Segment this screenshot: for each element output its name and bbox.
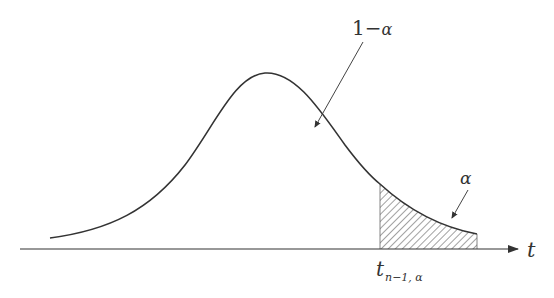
axis-label-t: t [527,238,536,262]
t-distribution-diagram: 1−α α t tn−1, α [0,0,554,298]
tail-area-label: α [460,168,472,188]
tail-area-arrow [452,190,468,218]
tail-region-shading [380,184,477,249]
critical-value-label: tn−1, α [376,257,423,284]
central-area-arrow [315,42,363,127]
central-area-label: 1−α [352,16,392,40]
